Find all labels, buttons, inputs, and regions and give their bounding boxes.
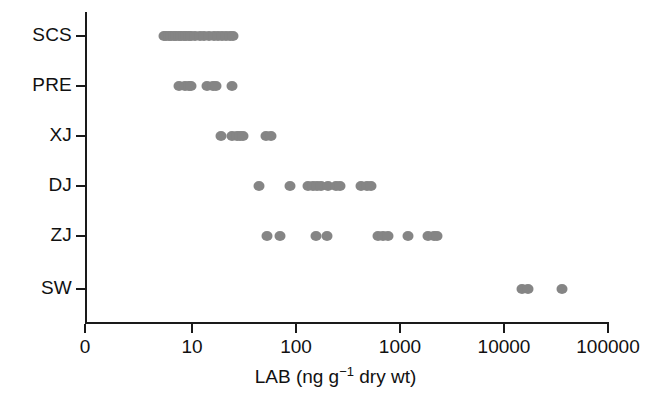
data-point	[556, 284, 567, 294]
x-axis-title-superscript: −1	[339, 364, 354, 379]
series-sw	[0, 0, 671, 408]
x-axis-title: LAB (ng g−1 dry wt)	[0, 366, 671, 388]
x-axis-title-main: LAB (ng g	[255, 366, 340, 387]
x-axis-title-tail: dry wt)	[354, 366, 416, 387]
data-point	[523, 284, 534, 294]
chart-figure: SCSPREXJDJZJSW 010100100010000100000 LAB…	[0, 0, 671, 408]
